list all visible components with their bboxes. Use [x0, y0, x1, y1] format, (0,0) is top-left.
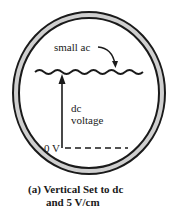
dc-label: dc	[71, 102, 81, 114]
oscilloscope-diagram	[0, 0, 177, 214]
small-ac-label: small ac	[54, 41, 90, 53]
caption-line-2: and 5 V/cm	[46, 196, 100, 209]
screen-bezel	[13, 12, 165, 174]
voltage-label: voltage	[71, 114, 103, 126]
caption-line-1: (a) Vertical Set to dc	[28, 183, 123, 196]
zero-volts-label: 0 V	[44, 142, 60, 154]
